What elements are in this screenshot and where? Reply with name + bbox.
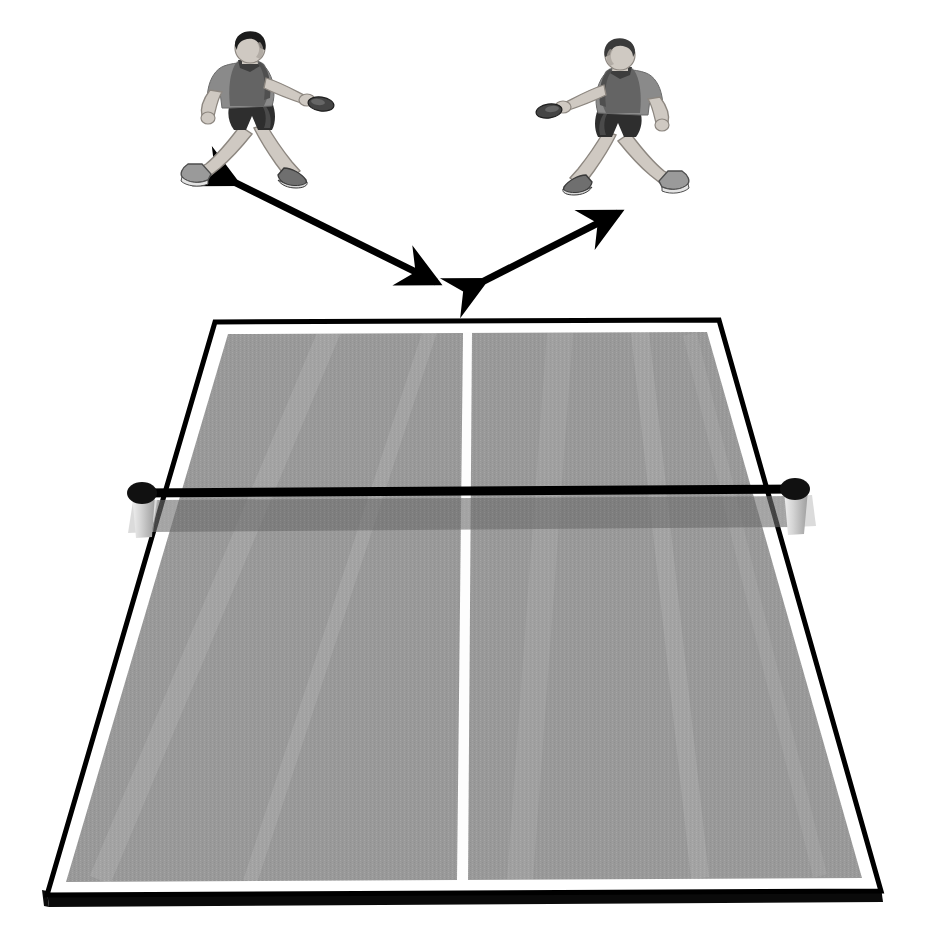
net-post-right-knob [780, 478, 810, 500]
net-post-left-knob [127, 482, 157, 504]
movement-arrows [236, 183, 618, 282]
net-cord [140, 489, 797, 493]
table-tennis-table [42, 320, 883, 907]
net-band [152, 496, 795, 532]
diagram-canvas: Table tennis ready-position footwork dia… [0, 0, 943, 943]
arrow-right [484, 213, 619, 281]
player-left [181, 31, 335, 188]
table-tennis-diagram [0, 0, 943, 943]
player-left-hand-back [201, 112, 215, 124]
arrow-left [236, 183, 436, 282]
player-right [535, 38, 689, 195]
player-right-hand-back [655, 119, 669, 131]
